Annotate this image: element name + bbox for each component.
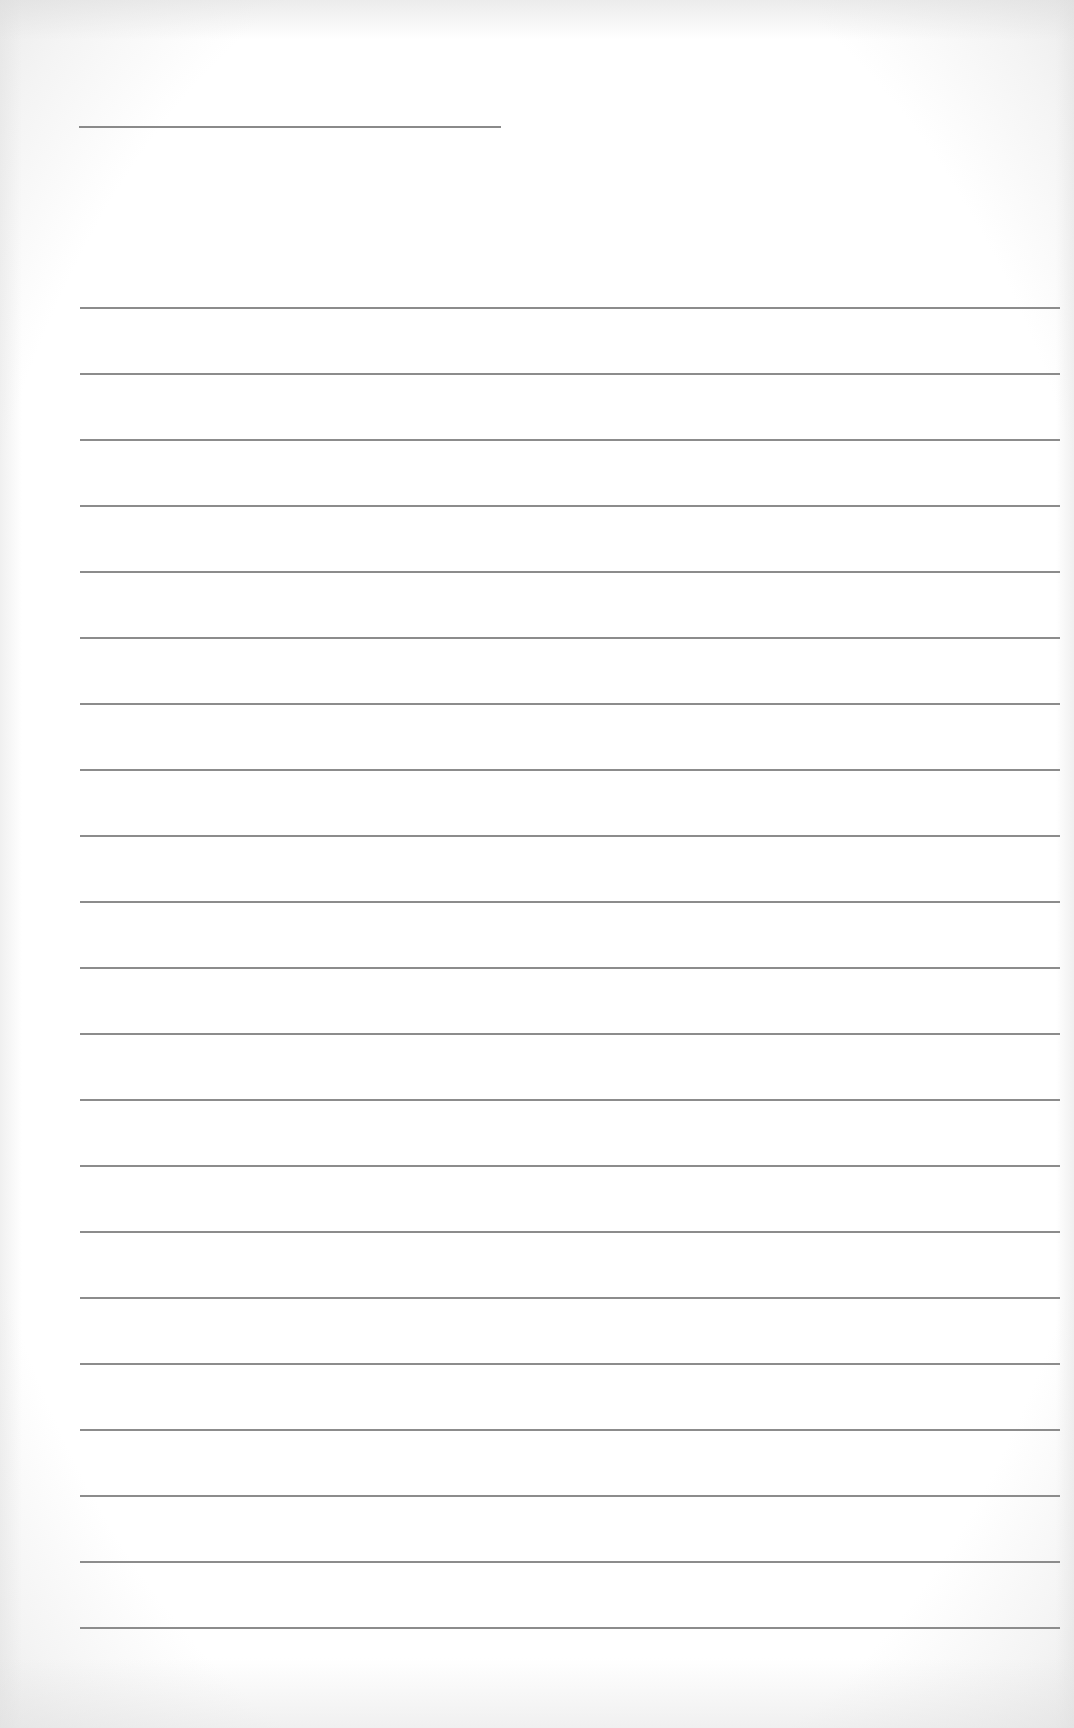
ruled-line xyxy=(80,439,1060,441)
ruled-line xyxy=(80,1429,1060,1431)
ruled-line xyxy=(80,1033,1060,1035)
writing-line-field[interactable] xyxy=(80,845,1060,901)
ruled-line xyxy=(80,505,1060,507)
ruled-line xyxy=(80,769,1060,771)
ruled-line xyxy=(80,1099,1060,1101)
ruled-line xyxy=(80,901,1060,903)
writing-line-field[interactable] xyxy=(80,1109,1060,1165)
writing-line-field[interactable] xyxy=(80,1175,1060,1231)
writing-line-field[interactable] xyxy=(80,977,1060,1033)
writing-line-field[interactable] xyxy=(80,383,1060,439)
writing-line-field[interactable] xyxy=(80,713,1060,769)
ruled-line xyxy=(80,1165,1060,1167)
writing-line-field[interactable] xyxy=(80,1241,1060,1297)
writing-line-field[interactable] xyxy=(80,779,1060,835)
writing-line-field[interactable] xyxy=(80,317,1060,373)
writing-line-field[interactable] xyxy=(80,449,1060,505)
writing-line-field[interactable] xyxy=(80,1505,1060,1561)
ruled-line xyxy=(80,1231,1060,1233)
ruled-line xyxy=(80,703,1060,705)
writing-line-field[interactable] xyxy=(80,911,1060,967)
writing-line-field[interactable] xyxy=(80,647,1060,703)
lined-paper-page xyxy=(0,0,1074,1728)
ruled-line xyxy=(80,1297,1060,1299)
ruled-line xyxy=(80,967,1060,969)
ruled-line xyxy=(80,307,1060,309)
writing-line-field[interactable] xyxy=(80,515,1060,571)
writing-line-field[interactable] xyxy=(80,1439,1060,1495)
writing-line-field[interactable] xyxy=(80,1373,1060,1429)
ruled-line xyxy=(80,1495,1060,1497)
ruled-line xyxy=(80,373,1060,375)
ruled-line xyxy=(80,835,1060,837)
writing-line-field[interactable] xyxy=(80,581,1060,637)
writing-line-field[interactable] xyxy=(80,1307,1060,1363)
ruled-line xyxy=(80,1363,1060,1365)
ruled-line xyxy=(80,571,1060,573)
ruled-line xyxy=(80,637,1060,639)
ruled-line xyxy=(80,1561,1060,1563)
writing-line-field[interactable] xyxy=(80,1571,1060,1627)
writing-line-field[interactable] xyxy=(80,251,1060,307)
writing-line-field[interactable] xyxy=(80,1043,1060,1099)
ruled-line xyxy=(80,1627,1060,1629)
ruled-lines-container xyxy=(80,0,1060,1728)
